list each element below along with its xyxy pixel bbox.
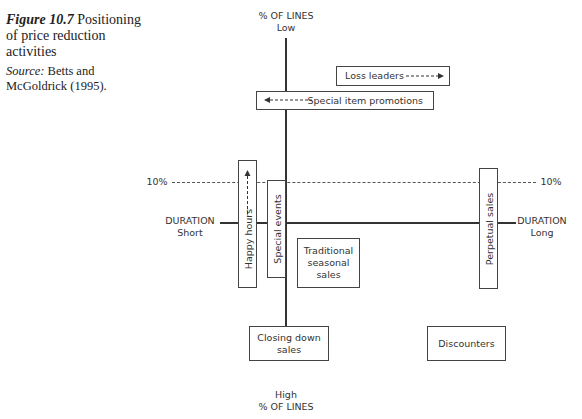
happy-hours-up-arrow-icon (245, 170, 251, 215)
arrows-layer (0, 0, 582, 419)
special-item-left-arrow-icon (264, 97, 312, 103)
loss-leaders-right-arrow-icon (406, 73, 444, 79)
